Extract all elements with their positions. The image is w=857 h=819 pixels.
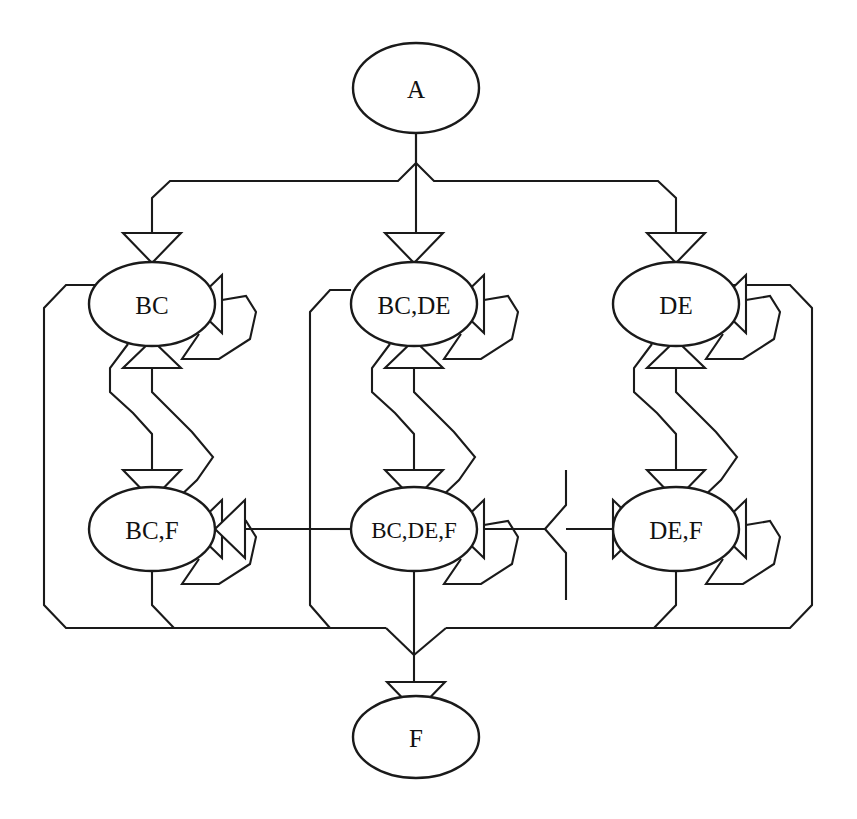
node-f[interactable]: F (353, 696, 479, 778)
node-a[interactable]: A (353, 43, 479, 133)
edge-def-to-f (446, 571, 676, 628)
edge-layer (44, 133, 812, 682)
edge-bottom-rail-left-to-f (386, 628, 414, 655)
node-a-label: A (407, 76, 425, 103)
edge-bc-outer-left-wrap (44, 285, 386, 628)
edge-a-to-bc (152, 133, 416, 233)
diagram-canvas: A BC BC,DE DE BC,F BC,DE,F (0, 0, 857, 819)
edge-bcde-inner-left-wrap (310, 290, 351, 628)
node-f-label: F (409, 725, 423, 752)
edge-bcdef-to-def-link (545, 470, 566, 529)
node-def[interactable]: DE,F (613, 487, 739, 571)
node-bc[interactable]: BC (89, 262, 215, 346)
node-de-label: DE (659, 292, 692, 319)
edge-def-link-down (545, 529, 566, 600)
node-bcde-label: BC,DE (378, 292, 451, 319)
edge-bcf-to-f (152, 571, 386, 628)
node-bcdef[interactable]: BC,DE,F (351, 487, 477, 571)
edge-a-to-de (416, 163, 676, 233)
edge-bottom-rail-right-to-f (414, 628, 446, 655)
node-bcf-label: BC,F (125, 517, 179, 544)
arrowhead-into-bc (123, 233, 181, 263)
graph-svg: A BC BC,DE DE BC,F BC,DE,F (0, 0, 857, 819)
node-de[interactable]: DE (613, 262, 739, 346)
node-bcde[interactable]: BC,DE (351, 262, 477, 346)
node-bcdef-label: BC,DE,F (371, 518, 457, 543)
edge-de-outer-right-wrap (446, 285, 812, 628)
arrowhead-into-bcde (385, 233, 443, 263)
node-def-label: DE,F (649, 517, 702, 544)
arrowhead-into-de (647, 233, 705, 263)
node-bc-label: BC (135, 292, 168, 319)
node-bcf[interactable]: BC,F (89, 487, 215, 571)
